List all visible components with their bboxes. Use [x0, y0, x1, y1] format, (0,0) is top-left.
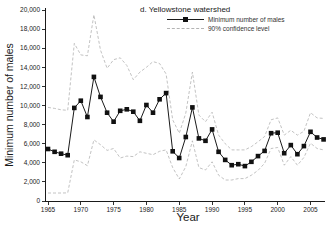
estimate-marker — [85, 115, 90, 120]
estimate-marker — [118, 109, 123, 114]
y-tick-label: 10,000 — [20, 102, 40, 109]
estimate-marker — [170, 149, 175, 154]
estimate-marker — [79, 98, 84, 103]
estimate-marker — [236, 162, 241, 167]
legend-label-estimate: Minimum number of males — [208, 16, 285, 23]
estimate-marker — [295, 152, 300, 157]
estimate-marker — [229, 163, 234, 168]
estimate-marker — [184, 135, 189, 140]
estimate-marker — [256, 154, 261, 159]
estimate-marker — [275, 130, 280, 135]
y-tick-label: 18,000 — [20, 25, 40, 32]
square-marker-icon — [183, 17, 188, 22]
y-tick-label: 12,000 — [20, 83, 40, 90]
estimate-marker — [164, 91, 169, 96]
estimate-marker — [177, 156, 182, 161]
estimate-marker — [151, 110, 156, 115]
estimate-marker — [262, 149, 267, 154]
estimate-marker — [321, 137, 326, 142]
estimate-marker — [98, 95, 103, 100]
solid-line-with-square-marker-icon — [167, 16, 204, 23]
x-tick-label: 2005 — [303, 206, 318, 213]
estimate-marker — [157, 97, 162, 102]
y-tick-label: 16,000 — [20, 44, 40, 51]
chart-title: d. Yellowstone watershed — [140, 5, 230, 14]
estimate-marker — [203, 139, 208, 144]
plot-area: 02,0004,0006,0008,00010,00012,00014,0001… — [0, 0, 326, 242]
estimate-marker — [302, 144, 307, 149]
dashed-line-icon — [167, 25, 204, 32]
estimate-marker — [52, 150, 57, 155]
estimate-marker — [131, 109, 136, 114]
legend-label-confidence: 90% confidence level — [208, 25, 269, 32]
y-tick-label: 0 — [36, 197, 40, 204]
estimate-marker — [216, 150, 221, 155]
legend-dashed-sample — [167, 28, 204, 29]
estimate-marker — [72, 106, 77, 111]
estimate-marker — [92, 75, 97, 80]
estimate-marker — [125, 107, 130, 112]
x-axis-title: Year — [176, 211, 199, 223]
estimate-marker — [144, 103, 149, 108]
ci-upper-line — [48, 15, 324, 150]
x-tick-label: 1975 — [106, 206, 121, 213]
estimate-marker — [190, 105, 195, 110]
estimate-marker — [243, 164, 248, 169]
estimate-marker — [223, 158, 228, 163]
x-tick-label: 1980 — [139, 206, 154, 213]
estimate-marker — [308, 130, 313, 135]
x-tick-label: 1965 — [41, 206, 56, 213]
estimate-marker — [105, 110, 110, 115]
y-tick-label: 4,000 — [24, 159, 41, 166]
y-tick-label: 8,000 — [24, 121, 41, 128]
estimate-marker — [65, 153, 70, 158]
legend-item-confidence: 90% confidence level — [167, 24, 285, 33]
y-tick-label: 2,000 — [24, 178, 41, 185]
estimate-marker — [249, 160, 254, 165]
estimate-marker — [282, 151, 287, 156]
legend-item-estimate: Minimum number of males — [167, 15, 285, 24]
estimate-marker — [138, 119, 143, 124]
x-tick-label: 1995 — [238, 206, 253, 213]
y-tick-label: 14,000 — [20, 64, 40, 71]
estimate-marker — [210, 127, 215, 132]
estimate-marker — [289, 143, 294, 148]
x-tick-label: 1970 — [74, 206, 89, 213]
estimate-marker — [197, 136, 202, 141]
y-tick-label: 20,000 — [20, 6, 40, 13]
estimate-marker — [59, 151, 64, 156]
estimate-marker — [315, 135, 320, 140]
y-axis-title: Minimum number of males — [3, 43, 15, 167]
y-tick-label: 6,000 — [24, 140, 41, 147]
x-tick-label: 2000 — [270, 206, 285, 213]
chart-panel: 02,0004,0006,0008,00010,00012,00014,0001… — [0, 0, 326, 242]
estimate-marker — [46, 147, 51, 152]
estimate-marker — [111, 119, 116, 124]
legend: Minimum number of males 90% confidence l… — [167, 15, 285, 33]
x-tick-label: 1990 — [205, 206, 220, 213]
estimate-marker — [269, 131, 274, 136]
